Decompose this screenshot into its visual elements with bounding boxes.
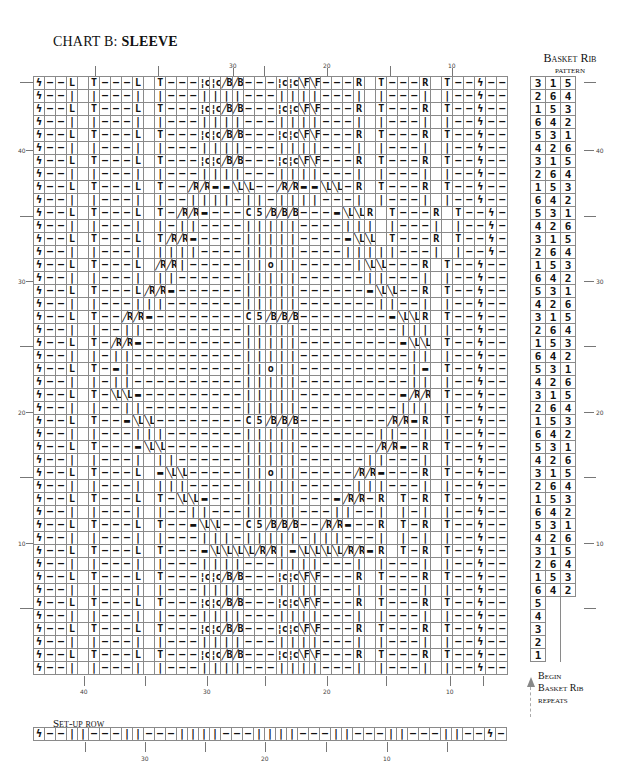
chart-cell-knit: |: [243, 220, 254, 233]
chart-cell-purl: —: [133, 363, 144, 376]
chart-cell-knit: |: [398, 402, 409, 415]
chart-cell-knit: |: [276, 350, 287, 363]
chart-cell-purl: —: [453, 649, 464, 662]
chart-cell-purl: —: [409, 90, 420, 103]
left-axis-label: 40: [18, 147, 26, 154]
basket-rib-cell: 5: [561, 467, 576, 480]
chart-cell-knit: |: [232, 168, 243, 181]
basket-rib-cell: 1: [561, 441, 576, 454]
chart-cell-knit: |: [89, 168, 100, 181]
chart-cell-knit: |: [89, 506, 100, 519]
chart-cell-blank: [365, 571, 376, 584]
chart-cell-knit: |: [67, 728, 78, 741]
chart-row: ϟ——||———||——||||—||—||||———||———||——ϟ——: [34, 194, 508, 207]
chart-cell-purl: —: [221, 350, 232, 363]
chart-cell-purl: —: [188, 636, 199, 649]
chart-cell-twisted-st: ϟ: [475, 285, 486, 298]
chart-cell-knit: |: [420, 584, 431, 597]
chart-cell-knit: |: [111, 376, 122, 389]
chart-cell-twisted-st: ϟ: [475, 519, 486, 532]
chart-cell-twisted-st: ϟ: [486, 246, 497, 259]
chart-cell-purl: —: [365, 337, 376, 350]
chart-cell-purl: —: [188, 142, 199, 155]
chart-cell-knit: |: [243, 285, 254, 298]
chart-cell-knit: |: [199, 558, 210, 571]
chart-cell-purl: —: [221, 402, 232, 415]
chart-cell-knit: |: [133, 272, 144, 285]
chart-cell-blank: [144, 558, 155, 571]
chart-cell-blank: [144, 168, 155, 181]
chart-cell-purl: —: [354, 376, 365, 389]
chart-cell-knit: |: [276, 272, 287, 285]
chart-cell-purl: —: [122, 129, 133, 142]
chart-cell-purl: —: [45, 220, 56, 233]
chart-cell-knit: |: [420, 116, 431, 129]
chart-cell-right-twist: T: [387, 207, 398, 220]
chart-cell-left-cross: L: [67, 77, 78, 90]
chart-cell-cable-b-right: ╱B: [221, 155, 232, 168]
chart-cell-cable-R-diag: ╱R: [166, 233, 177, 246]
right-axis-tick: [584, 543, 594, 544]
chart-cell-purl: —: [177, 506, 188, 519]
chart-cell-purl: —: [497, 233, 508, 246]
basket-rib-cell: 2: [546, 298, 561, 311]
chart-cell-blank: [431, 441, 442, 454]
chart-cell-twisted-st: ϟ: [475, 129, 486, 142]
chart-cell-purl: —: [486, 402, 497, 415]
chart-cell-knit: |: [67, 610, 78, 623]
chart-cell-knit: |: [265, 506, 276, 519]
chart-cell-blank: [144, 233, 155, 246]
chart-cell-right-twist: T: [89, 363, 100, 376]
chart-cell-knit: |: [133, 428, 144, 441]
chart-cell-purl: —: [56, 454, 67, 467]
chart-cell-left-cross: L: [67, 493, 78, 506]
chart-cell-twisted-st: ϟ: [475, 350, 486, 363]
chart-cell-knit: |: [89, 246, 100, 259]
chart-cell-purl: —: [298, 298, 309, 311]
chart-cell-purl: —: [331, 285, 342, 298]
chart-cell-blank: [365, 77, 376, 90]
chart-cell-purl: —: [100, 597, 111, 610]
chart-cell-purl: —: [464, 285, 475, 298]
chart-cell-purl: —: [354, 441, 365, 454]
chart-cell-knit: |: [210, 532, 221, 545]
chart-row: ϟ——LT———LT—╱R╱R▬———C5╱B╱B╱B———▬╲L╲LRT———…: [34, 207, 508, 220]
left-axis-minor-tick: [20, 608, 33, 609]
chart-cell-knit: |: [265, 246, 276, 259]
chart-cell-purl: —: [188, 597, 199, 610]
left-axis-label: 30: [18, 278, 26, 285]
chart-cell-knit: |: [243, 467, 254, 480]
chart-cell-purl: —: [56, 532, 67, 545]
chart-cell-purl: —: [298, 428, 309, 441]
chart-cell-purl: —: [144, 337, 155, 350]
chart-cell-blank: [78, 363, 89, 376]
chart-cell-purl: —: [320, 636, 331, 649]
chart-cell-blank: [431, 350, 442, 363]
right-axis-label: 40: [596, 147, 604, 154]
chart-cell-purl: —: [56, 441, 67, 454]
chart-cell-purl: —: [177, 90, 188, 103]
chart-cell-knit: |: [243, 376, 254, 389]
chart-cell-purl: —: [122, 636, 133, 649]
chart-cell-left-cross: L: [133, 623, 144, 636]
chart-cell-purl: —: [464, 168, 475, 181]
chart-cell-purl: —: [376, 324, 387, 337]
chart-cell-purl: —: [464, 610, 475, 623]
chart-cell-purl: —: [497, 168, 508, 181]
chart-cell-knit: |: [89, 610, 100, 623]
chart-cell-purl: —: [486, 597, 497, 610]
chart-cell-purl: —: [331, 363, 342, 376]
chart-cell-purl: —: [199, 441, 210, 454]
chart-cell-purl: —: [387, 259, 398, 272]
chart-cell-purl: —: [56, 728, 67, 741]
chart-cell-purl: —: [56, 376, 67, 389]
chart-cell-blank: [431, 623, 442, 636]
chart-cell-purl: —: [486, 285, 497, 298]
chart-cell-purl: —: [232, 389, 243, 402]
basket-rib-row: 642: [531, 194, 576, 207]
basket-rib-cell: 6: [561, 532, 576, 545]
chart-cell-purl: —: [331, 441, 342, 454]
chart-cell-purl: —: [342, 649, 353, 662]
chart-cell-left-cross: L: [133, 129, 144, 142]
chart-cell-purl: —: [144, 350, 155, 363]
